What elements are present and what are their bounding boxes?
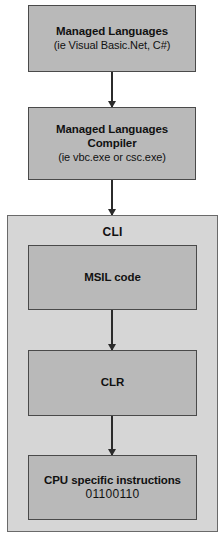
arrow-msil-to-clr [111,310,113,350]
node-compiler-title-line1: Managed Languages [56,123,168,137]
arrow-compiler-to-cli [111,180,113,215]
node-compiler-title-line2: Compiler [87,137,136,151]
node-managed-languages-compiler: Managed Languages Compiler (ie vbc.exe o… [28,107,196,180]
arrow-managed-languages-to-compiler [111,72,113,107]
node-cpu-title: CPU specific instructions [44,474,181,488]
node-cpu-subtitle: 01100110 [85,487,139,501]
flow-diagram: Managed Languages (ie Visual Basic.Net, … [0,0,224,547]
node-managed-languages: Managed Languages (ie Visual Basic.Net, … [28,5,196,72]
node-clr: CLR [28,350,197,416]
node-managed-languages-title: Managed Languages [56,25,168,39]
node-msil-title: MSIL code [84,271,140,285]
node-cpu-specific-instructions: CPU specific instructions 01100110 [28,455,197,520]
group-cli-label: CLI [8,225,217,239]
node-msil-code: MSIL code [28,245,197,310]
arrow-clr-to-cpu [111,416,113,455]
node-compiler-subtitle: (ie vbc.exe or csc.exe) [58,151,166,164]
node-clr-title: CLR [101,376,124,390]
node-managed-languages-subtitle: (ie Visual Basic.Net, C#) [54,39,171,52]
